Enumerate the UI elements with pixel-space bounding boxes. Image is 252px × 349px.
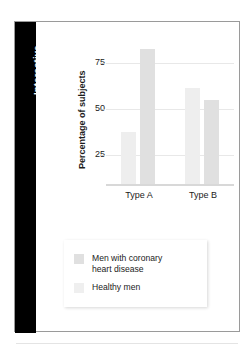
legend-swatch-healthy-men bbox=[74, 283, 84, 293]
y-tick-label-25: 25 bbox=[83, 149, 105, 159]
legend-label-men-with-chd: Men with coronary heart disease bbox=[92, 253, 162, 274]
chart-body: Percentage of subjects 75 50 25 Type A T… bbox=[36, 22, 240, 333]
y-tick-label-50: 50 bbox=[83, 103, 105, 113]
gridline-75 bbox=[106, 63, 234, 64]
bar-type-b-healthy-men bbox=[185, 88, 200, 184]
bar-type-a-healthy-men bbox=[121, 132, 136, 185]
bar-type-b-men-with-chd bbox=[204, 100, 219, 184]
y-tick-mark-75 bbox=[102, 63, 105, 64]
x-axis-tick-labels: Type A Type B bbox=[106, 190, 234, 204]
y-tick-mark-25 bbox=[102, 155, 105, 156]
x-axis-baseline bbox=[106, 184, 234, 186]
page-bottom-rule bbox=[16, 343, 238, 344]
legend-item-men-with-chd: Men with coronary heart disease bbox=[74, 253, 162, 274]
bar-type-a-men-with-chd bbox=[140, 49, 155, 184]
x-tick-label-type-b: Type B bbox=[172, 190, 234, 200]
chart-legend: Men with coronary heart disease Healthy … bbox=[64, 240, 207, 307]
plot-area bbox=[106, 34, 234, 186]
legend-label-healthy-men: Healthy men bbox=[92, 282, 140, 293]
x-tick-label-type-a: Type A bbox=[108, 190, 170, 200]
interactive-tab-strip[interactable]: Interactive bbox=[15, 22, 36, 333]
legend-swatch-men-with-chd bbox=[74, 254, 84, 264]
y-tick-mark-50 bbox=[102, 109, 105, 110]
legend-item-healthy-men: Healthy men bbox=[74, 282, 140, 293]
figure-frame: Interactive Percentage of subjects 75 50… bbox=[14, 21, 240, 332]
y-tick-label-75: 75 bbox=[83, 57, 105, 67]
